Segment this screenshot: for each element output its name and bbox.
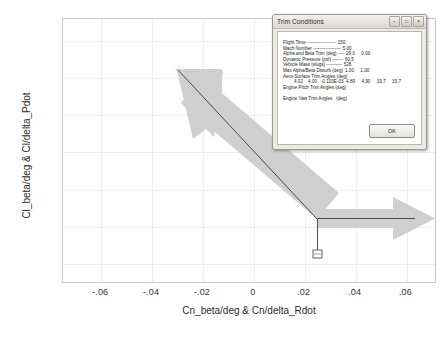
ok-button[interactable]: OK: [369, 124, 415, 138]
trim-condition-value: 1.00 1.00: [345, 68, 369, 74]
gridline-vertical: [101, 19, 102, 282]
gridline-vertical: [254, 19, 255, 282]
origin-drop-line: [313, 218, 322, 258]
window-controls[interactable]: – □ ×: [389, 16, 424, 27]
gridline-horizontal: [63, 190, 435, 191]
trim-condition-row: Engine Yaw Trim Angles (deg): [283, 96, 416, 102]
minimize-button[interactable]: –: [389, 16, 400, 27]
dialog-body: Flight Time -------------------150.Mach …: [277, 31, 422, 145]
gridline-horizontal: [63, 227, 435, 228]
dialog-title: Trim Conditions: [273, 18, 324, 25]
close-button[interactable]: ×: [413, 16, 424, 27]
gridline-horizontal: [63, 152, 435, 153]
maximize-button[interactable]: □: [401, 16, 412, 27]
trim-conditions-list: Flight Time -------------------150.Mach …: [283, 40, 416, 101]
control-vector: [317, 197, 435, 240]
trim-condition-label: Engine Yaw Trim Angles (deg): [283, 96, 347, 102]
trim-conditions-dialog[interactable]: Trim Conditions – □ × Flight Time ------…: [272, 14, 427, 150]
x-tick-label: .06: [375, 287, 435, 297]
gridline-vertical: [152, 19, 153, 282]
gridline-vertical: [203, 19, 204, 282]
gridline-horizontal: [63, 264, 435, 265]
y-axis-label: Cl_beta/deg & Cl/delta_Pdot: [21, 46, 32, 266]
trim-condition-label: Engine Pitch Trim Angles (deg): [283, 85, 346, 91]
dialog-titlebar[interactable]: Trim Conditions – □ ×: [273, 15, 426, 29]
x-axis-label: Cn_beta/deg & Cn/delta_Rdot: [62, 305, 436, 316]
